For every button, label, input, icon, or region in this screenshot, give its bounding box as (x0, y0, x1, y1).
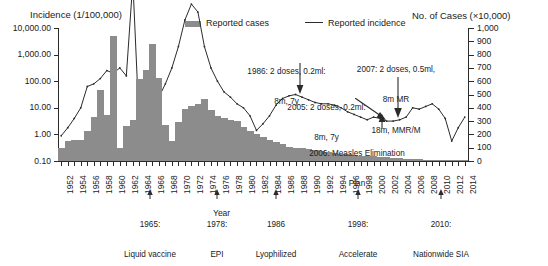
annotation-1986-lyophilized-vaccine: 1986 Lyophilized vaccine (240, 199, 312, 266)
x-tick-label-2012: 2012 (455, 175, 465, 194)
x-tick (178, 162, 179, 166)
bar-2014 (461, 160, 468, 161)
x-tick (152, 162, 153, 166)
y-left-tick (54, 134, 59, 135)
legend-label-reported-cases: Reported cases (206, 18, 269, 28)
y-left-tick-label-10.00: 10.00 (3, 102, 51, 112)
annotation-2010-line1: 2010: (394, 220, 488, 230)
annotation-1978-arrow-icon (212, 189, 222, 200)
x-tick (61, 162, 62, 166)
legend-label-reported-incidence: Reported incidence (328, 18, 406, 28)
y-left-tick-label-100.00: 100.00 (3, 76, 51, 86)
annotation-2007-line1: 2007: 2 doses, 0.5ml, (332, 65, 460, 75)
annotation-2006-arrow-icon (375, 114, 389, 130)
y-left-tick-label-0.10: 0.10 (3, 156, 51, 166)
y-left-tick (54, 55, 59, 56)
y-left-tick-label-1.00: 1.00 (3, 129, 51, 139)
x-tick (230, 162, 231, 166)
y-right-tick (469, 108, 474, 109)
x-tick (250, 162, 251, 166)
y-right-tick (469, 161, 474, 162)
y-right-tick (469, 68, 474, 69)
bar-1960 (110, 36, 117, 161)
y-right-tick (469, 95, 474, 96)
x-tick-label-1968: 1968 (169, 175, 179, 194)
legend-bar-swatch-icon (185, 21, 201, 27)
x-tick (204, 162, 205, 166)
x-tick (94, 162, 95, 166)
y-right-tick-label-800: 800 (477, 49, 517, 59)
x-tick (217, 162, 218, 166)
x-tick (113, 162, 114, 166)
annotation-2007-arrow-icon (388, 77, 408, 119)
x-tick-label-1954: 1954 (78, 175, 88, 194)
x-tick (191, 162, 192, 166)
figure-measles-incidence: Incidence (1/100,000) No. of Cases (×10,… (0, 0, 548, 266)
annotation-1998-accelerate-control: 1998: Accelerate measles control (322, 199, 394, 266)
x-tick (68, 162, 69, 166)
x-tick (198, 162, 199, 166)
y-axis-left-title: Incidence (1/100,000) (30, 10, 122, 20)
y-axis-right-title: No. of Cases (×10,000) (412, 11, 510, 21)
y-right-tick-label-600: 600 (477, 76, 517, 86)
x-tick (107, 162, 108, 166)
x-tick-label-1978: 1978 (234, 175, 244, 194)
y-right-tick (469, 55, 474, 56)
y-left-tick (54, 28, 59, 29)
x-tick-label-1960: 1960 (117, 175, 127, 194)
annotation-1986-axis-line1: 1986 (240, 220, 312, 230)
x-tick (211, 162, 212, 166)
y-right-tick-label-300: 300 (477, 116, 517, 126)
x-tick (159, 162, 160, 166)
y-right-tick (469, 41, 474, 42)
y-right-tick-label-500: 500 (477, 89, 517, 99)
x-tick (133, 162, 134, 166)
annotation-2010-arrow-icon (436, 189, 446, 200)
x-tick-label-1962: 1962 (130, 175, 140, 194)
x-tick (256, 162, 257, 166)
y-left-tick (54, 161, 59, 162)
x-tick (120, 162, 121, 166)
x-tick-label-1952: 1952 (65, 175, 75, 194)
annotation-1998-line2: Accelerate (322, 250, 394, 260)
y-right-tick-label-400: 400 (477, 102, 517, 112)
legend-item-reported-cases: Reported cases (185, 18, 269, 28)
legend-item-reported-incidence: Reported incidence (305, 18, 406, 28)
x-tick (224, 162, 225, 166)
x-tick-label-1976: 1976 (221, 175, 231, 194)
annotation-2010-line2: Nationwide SIA (394, 250, 488, 260)
y-right-tick-label-900: 900 (477, 36, 517, 46)
y-right-tick (469, 81, 474, 82)
legend-line-swatch-icon (305, 22, 323, 23)
annotation-1986-axis-line2: Lyophilized (240, 250, 312, 260)
y-right-tick (469, 121, 474, 122)
x-tick (81, 162, 82, 166)
x-tick (87, 162, 88, 166)
annotation-1965-arrow-icon (145, 189, 155, 200)
x-tick (237, 162, 238, 166)
x-tick-label-2014: 2014 (468, 175, 478, 194)
y-right-tick-label-1,000: 1,000 (477, 23, 517, 33)
x-tick-label-1956: 1956 (91, 175, 101, 194)
x-tick (146, 162, 147, 166)
annotation-1986-axis-arrow-icon (271, 189, 281, 200)
annotation-1998-line1: 1998: (322, 220, 394, 230)
x-tick (126, 162, 127, 166)
x-tick (465, 162, 466, 166)
y-right-tick-label-0: 0 (477, 156, 517, 166)
x-tick (172, 162, 173, 166)
x-tick (458, 162, 459, 166)
x-tick (185, 162, 186, 166)
x-tick (165, 162, 166, 166)
x-tick-label-1972: 1972 (195, 175, 205, 194)
x-tick (100, 162, 101, 166)
x-tick-label-1970: 1970 (182, 175, 192, 194)
y-right-tick (469, 148, 474, 149)
x-tick-label-1980: 1980 (247, 175, 257, 194)
annotation-2006-line1: 2006: Measles Elimination (262, 149, 452, 159)
y-right-tick-label-700: 700 (477, 62, 517, 72)
annotation-1986-line1: 1986: 2 doses, 0.2ml: (224, 67, 349, 77)
annotation-2010-nationwide-sia: 2010: Nationwide SIA (394, 199, 488, 266)
y-right-tick-label-200: 200 (477, 129, 517, 139)
y-right-tick (469, 134, 474, 135)
